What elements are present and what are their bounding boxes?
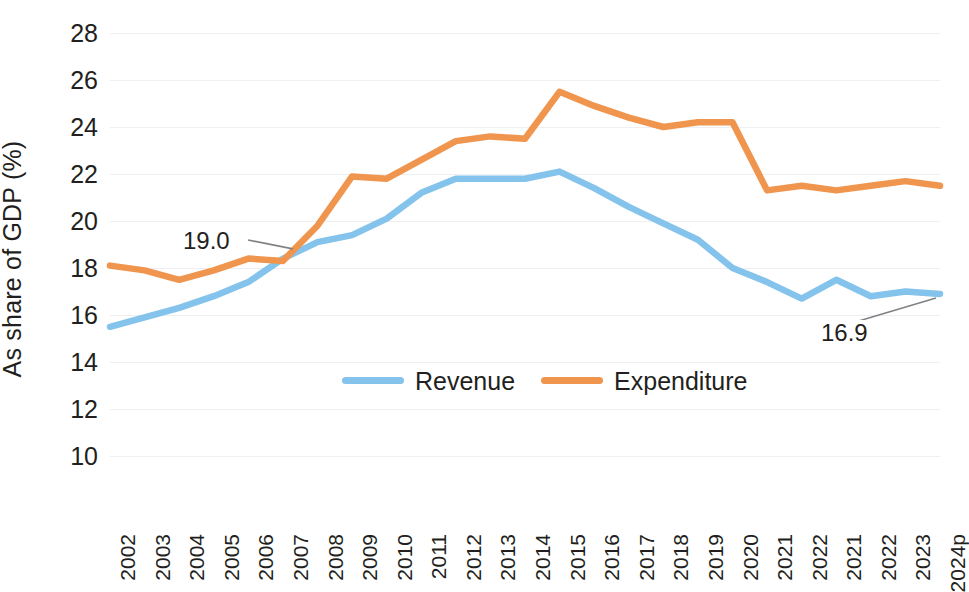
x-axis-tick-label: 2024p bbox=[947, 534, 968, 592]
leader-line-19 bbox=[248, 240, 293, 249]
legend-label-expenditure: Expenditure bbox=[614, 369, 747, 394]
series-line-revenue bbox=[110, 172, 940, 327]
legend-label-revenue: Revenue bbox=[415, 369, 515, 394]
legend-item-revenue[interactable]: Revenue bbox=[342, 368, 515, 393]
legend-item-expenditure[interactable]: Expenditure bbox=[541, 368, 747, 393]
series-line-expenditure bbox=[110, 92, 940, 280]
chart-legend: Revenue Expenditure bbox=[342, 368, 748, 393]
legend-swatch-revenue bbox=[342, 377, 404, 384]
annotation-crossover-value: 19.0 bbox=[180, 228, 233, 254]
legend-swatch-expenditure bbox=[541, 377, 603, 384]
annotation-final-revenue-value: 16.9 bbox=[818, 320, 871, 346]
